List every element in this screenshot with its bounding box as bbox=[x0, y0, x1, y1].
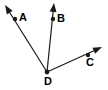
point-label-a: A bbox=[19, 11, 27, 23]
ray-da-group: A bbox=[5, 5, 47, 72]
ray-db-arrowhead bbox=[50, 3, 57, 12]
diagram-canvas: ABCD bbox=[0, 0, 108, 90]
ray-dc-arrowhead bbox=[92, 47, 102, 54]
ray-dc-group: C bbox=[47, 47, 102, 72]
ray-da-arrowhead bbox=[5, 5, 13, 14]
point-label-c: C bbox=[86, 56, 94, 68]
vertex-dot-d bbox=[45, 70, 50, 75]
vertex-label-d: D bbox=[44, 75, 52, 87]
vertex-group: D bbox=[44, 70, 52, 87]
point-dot-b bbox=[51, 17, 55, 21]
geometry-diagram: ABCD bbox=[0, 0, 108, 90]
ray-db-group: B bbox=[47, 3, 65, 72]
point-dot-a bbox=[13, 17, 17, 21]
point-label-b: B bbox=[57, 12, 65, 24]
